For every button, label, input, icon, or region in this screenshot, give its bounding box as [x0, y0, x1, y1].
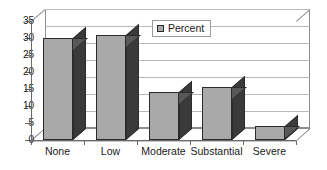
- x-tick-label-low: Low: [84, 145, 137, 157]
- bar-chart: 05101520253035 NoneLowModerateSubstantia…: [0, 0, 327, 170]
- chart-legend: Percent: [152, 20, 211, 37]
- bar-severe: [255, 126, 285, 140]
- x-tick-label-severe: Severe: [243, 145, 296, 157]
- x-tick-label-none: None: [31, 145, 84, 157]
- legend-label-percent: Percent: [168, 22, 204, 34]
- bar-substantial: [202, 87, 232, 140]
- gridline-35: [45, 9, 310, 10]
- x-tick-label-substantial: Substantial: [190, 145, 243, 157]
- bar-front-face: [149, 92, 179, 140]
- bar-front-face: [43, 38, 73, 140]
- x-tick-label-moderate: Moderate: [137, 145, 190, 157]
- bar-moderate: [149, 92, 179, 140]
- bar-low: [96, 35, 126, 140]
- bar-front-face: [96, 35, 126, 140]
- y-axis-line: [31, 21, 32, 141]
- bar-front-face: [255, 126, 285, 140]
- x-tick-mark-5: [296, 141, 297, 145]
- bar-side-face: [232, 76, 245, 140]
- bar-none: [43, 38, 73, 140]
- percent-swatch: [157, 25, 164, 32]
- x-axis-line: [31, 140, 296, 141]
- bar-front-face: [202, 87, 232, 140]
